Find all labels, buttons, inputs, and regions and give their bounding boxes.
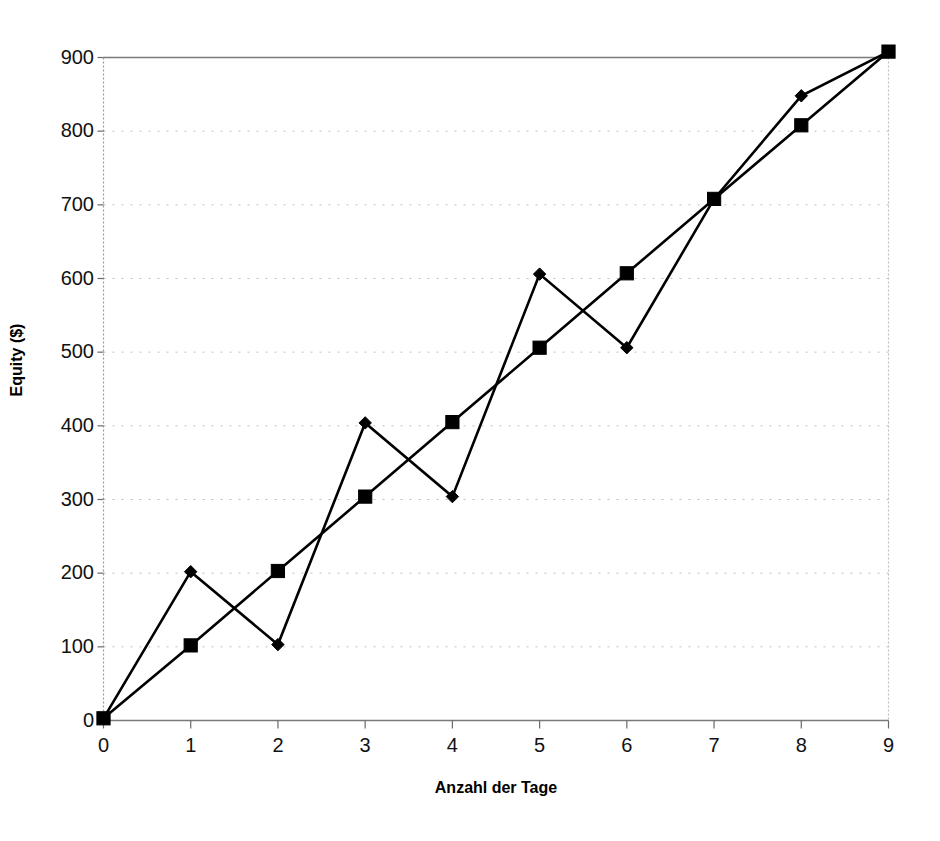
x-tick-label-5: 5 — [520, 734, 560, 756]
x-tick-label-3: 3 — [345, 734, 385, 756]
x-tick-label-2: 2 — [258, 734, 298, 756]
chart-container: Equity ($) 0100200300400500600700800900 … — [0, 0, 940, 841]
x-axis-tick-labels: 0123456789 — [0, 0, 940, 841]
x-tick-label-4: 4 — [432, 734, 472, 756]
x-tick-label-0: 0 — [84, 734, 124, 756]
x-tick-label-1: 1 — [171, 734, 211, 756]
x-tick-label-8: 8 — [781, 734, 821, 756]
x-tick-label-9: 9 — [869, 734, 909, 756]
x-axis-title: Anzahl der Tage — [103, 779, 889, 797]
x-tick-label-7: 7 — [694, 734, 734, 756]
x-tick-label-6: 6 — [607, 734, 647, 756]
